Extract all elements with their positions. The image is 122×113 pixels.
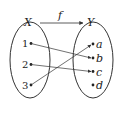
set-y-ellipse (73, 22, 113, 98)
codomain-element-a: a (96, 38, 103, 51)
codomain-dot-d (92, 84, 95, 87)
codomain-element-d: d (96, 79, 103, 92)
domain-element-3: 3 (22, 80, 28, 91)
codomain-element-c: c (96, 66, 102, 79)
set-x-label: X (23, 16, 33, 29)
codomain-dot-c (92, 70, 95, 73)
set-x-ellipse (10, 22, 50, 98)
codomain-dot-a (92, 43, 95, 46)
codomain-dot-b (92, 57, 95, 60)
mapping-arrow-2-c (31, 65, 91, 72)
mapping-diagram: X Y f 1 2 3 a b c d (0, 0, 122, 113)
domain-element-1: 1 (22, 38, 28, 49)
codomain-element-b: b (96, 52, 103, 65)
function-label: f (57, 9, 64, 22)
domain-element-2: 2 (22, 59, 28, 70)
